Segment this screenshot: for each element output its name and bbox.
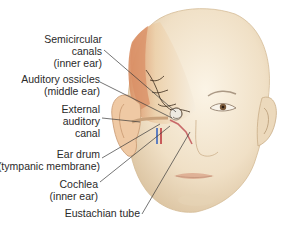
label-eustachian-tube: Eustachian tube [65, 207, 140, 219]
label-line: (inner ear) [50, 190, 98, 202]
label-line: auditory [61, 115, 100, 127]
label-line: (tympanic membrane) [0, 160, 100, 172]
head-illustration [0, 0, 284, 229]
label-line: Cochlea [50, 178, 98, 190]
left-ear [112, 95, 141, 156]
ear-anatomy-figure: Semicircular canals (inner ear) Auditory… [0, 0, 284, 229]
label-line: canals [44, 45, 102, 57]
label-ear-drum: Ear drum (tympanic membrane) [0, 148, 100, 172]
label-line: Auditory ossicles [21, 73, 100, 85]
label-line: (middle ear) [21, 85, 100, 97]
label-line: canal [61, 127, 100, 139]
label-line: Eustachian tube [65, 207, 140, 219]
label-auditory-ossicles: Auditory ossicles (middle ear) [21, 73, 100, 97]
label-line: Ear drum [0, 148, 100, 160]
chin-shadow [178, 194, 214, 206]
label-line: Semicircular [44, 33, 102, 45]
label-line: (inner ear) [44, 57, 102, 69]
label-semicircular-canals: Semicircular canals (inner ear) [44, 33, 102, 69]
label-external-auditory-canal: External auditory canal [61, 103, 100, 139]
label-cochlea: Cochlea (inner ear) [50, 178, 98, 202]
right-ear [257, 97, 276, 146]
label-line: External [61, 103, 100, 115]
